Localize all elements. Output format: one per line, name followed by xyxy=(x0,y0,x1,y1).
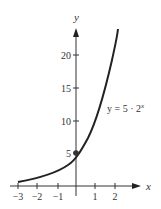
y-intercept-point xyxy=(73,150,79,156)
x-axis: −3 −2 −1 1 2 x xyxy=(10,180,151,202)
y-axis-label: y xyxy=(73,11,79,23)
x-tick-label: −3 xyxy=(13,191,24,202)
x-tick-label: −2 xyxy=(32,191,43,202)
curve-label: y = 5 · 2x xyxy=(107,102,145,114)
x-arrow-icon xyxy=(132,183,141,189)
y-tick-label: 10 xyxy=(61,116,71,127)
x-tick-label: 1 xyxy=(93,191,98,202)
y-tick-label: 15 xyxy=(61,83,71,94)
y-tick-label: 20 xyxy=(61,50,71,61)
y-arrow-icon xyxy=(73,28,79,37)
exponential-chart: −3 −2 −1 1 2 x 20 15 10 5 y y = 5 · 2x xyxy=(0,0,161,209)
y-tick-label: 5 xyxy=(66,148,71,159)
x-axis-label: x xyxy=(145,180,151,192)
x-tick-label: −1 xyxy=(53,191,64,202)
x-tick-label: 2 xyxy=(113,191,118,202)
